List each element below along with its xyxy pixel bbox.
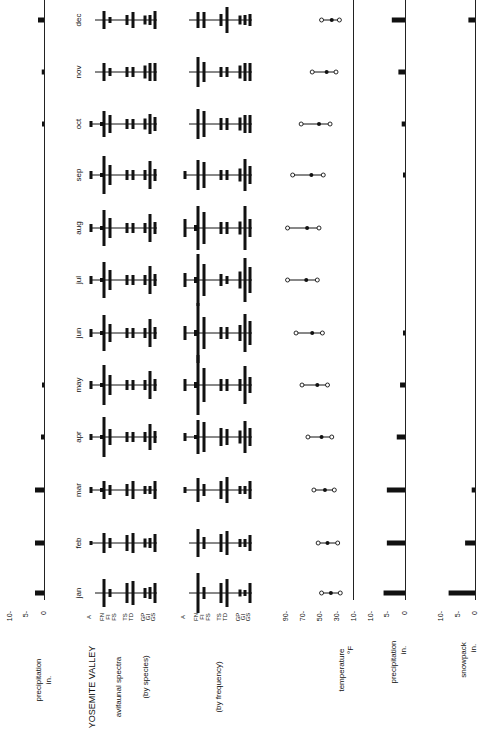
temp-max-feb <box>316 541 320 545</box>
month-label-oct: oct <box>74 118 83 129</box>
by-frequency-label: (by frequency) <box>214 661 223 712</box>
temp-mean-jan <box>329 591 333 595</box>
temp-max-sep <box>291 173 295 177</box>
temp-mean-oct <box>317 122 321 126</box>
species-spectra <box>90 11 158 607</box>
precip-right-label: precipitation <box>389 640 398 683</box>
snowpack-tick-5: 5- <box>454 610 461 617</box>
precip-left-label: precipitation <box>34 658 43 701</box>
temp-max-mar <box>312 488 316 492</box>
temp-max-apr <box>306 435 310 439</box>
temp-tick-70: 70- <box>299 610 306 621</box>
precipitation-left-bar-mar <box>35 488 44 493</box>
temp-max-nov <box>310 70 314 74</box>
month-label-apr: apr <box>74 431 83 443</box>
precip-right-tick-0: 0 <box>401 611 408 615</box>
temperature-unit: °F <box>346 646 355 654</box>
temp-mean-dec <box>330 18 334 22</box>
precip-right-bars <box>384 18 405 596</box>
temp-max-jun <box>294 331 298 335</box>
axis-lines <box>45 0 476 600</box>
temp-min-oct <box>328 122 332 126</box>
month-label-aug: aug <box>74 221 83 234</box>
snowpack-unit: in. <box>469 644 478 652</box>
snowpack-bar-mar <box>472 488 475 493</box>
temp-max-may <box>300 383 304 387</box>
month-label-mar: mar <box>74 483 83 497</box>
temp-max-dec <box>320 18 324 22</box>
month-label-dec: dec <box>74 14 83 27</box>
month-label-may: may <box>74 377 83 392</box>
month-label-jan: jan <box>74 588 83 600</box>
temp-mean-nov <box>325 70 329 74</box>
precipitation-right-bar-feb <box>387 541 405 546</box>
temp-max-jan <box>320 591 324 595</box>
snowpack-bars <box>449 18 475 596</box>
temperature-ranges <box>286 18 343 595</box>
month-label-jul: jul <box>74 276 83 285</box>
precip-right-tick-10: 10- <box>367 610 374 621</box>
freq-cat-FS: FS <box>205 613 211 621</box>
precipitation-left-bar-oct <box>42 122 44 127</box>
temp-min-jan <box>338 591 342 595</box>
precip-right-unit: in. <box>399 646 408 654</box>
precipitation-left-bar-jan <box>35 591 44 596</box>
temp-min-jul <box>315 278 319 282</box>
spectra-label: avifaunal spectra <box>114 656 123 717</box>
freq-cat-TD: TD <box>222 612 228 621</box>
precipitation-left-bar-apr <box>41 435 44 440</box>
temperature-label: temperature <box>337 648 346 692</box>
precipitation-right-bar-dec <box>392 18 405 23</box>
frequency-spectra <box>184 7 253 613</box>
month-label-sep: sep <box>74 168 83 181</box>
yosemite-climate-avifauna-chart: janfebmaraprmayjunjulaugsepoctnovdec 10-… <box>0 0 483 729</box>
precip-left-unit: in. <box>44 676 53 684</box>
temp-max-aug <box>286 226 290 230</box>
precipitation-right-bar-mar <box>387 488 405 493</box>
precipitation-left-bar-may <box>42 383 44 388</box>
snowpack-tick-10: 10- <box>437 610 444 621</box>
temp-min-sep <box>321 173 325 177</box>
freq-cat-GS: GS <box>245 613 251 622</box>
temp-tick-30: 30- <box>333 610 340 621</box>
precipitation-right-bar-may <box>400 383 405 388</box>
temp-min-apr <box>330 435 334 439</box>
temp-mean-jul <box>304 278 308 282</box>
freq-cat-A: A <box>180 615 186 619</box>
temp-max-jul <box>286 278 290 282</box>
temp-min-aug <box>317 226 321 230</box>
by-species-label: (by species) <box>141 655 150 698</box>
temp-min-jun <box>320 331 324 335</box>
precipitation-left-bar-dec <box>38 18 44 23</box>
temp-mean-may <box>315 383 319 387</box>
temp-max-oct <box>299 122 303 126</box>
temp-min-mar <box>332 488 336 492</box>
precipitation-right-bar-nov <box>398 70 405 75</box>
precipitation-right-bar-jun <box>403 331 405 336</box>
temp-mean-sep <box>309 173 313 177</box>
temp-tick-10: 10- <box>350 610 357 621</box>
precipitation-right-bar-sep <box>403 173 405 178</box>
snowpack-bar-jan <box>449 591 475 596</box>
precipitation-right-bar-jan <box>384 591 405 596</box>
temp-mean-apr <box>320 435 324 439</box>
precipitation-right-bar-apr <box>397 435 405 440</box>
snowpack-tick-0: 0 <box>471 611 478 615</box>
month-label-nov: nov <box>74 66 83 79</box>
month-label-feb: feb <box>74 537 83 549</box>
temp-mean-aug <box>305 226 309 230</box>
snowpack-bar-dec <box>468 18 475 23</box>
temp-min-feb <box>336 541 340 545</box>
precipitation-left-bar-nov <box>42 70 44 75</box>
temp-min-dec <box>337 18 341 22</box>
snowpack-bar-feb <box>465 541 475 546</box>
snowpack-label: snowpack <box>459 641 468 678</box>
month-labels: janfebmaraprmayjunjulaugsepoctnovdec <box>74 14 83 600</box>
chart-title: YOSEMITE VALLEY <box>87 646 97 728</box>
temp-tick-50: 50- <box>316 610 323 621</box>
precipitation-right-bar-oct <box>402 122 405 127</box>
species-cat-FS: FS <box>111 613 117 621</box>
temp-mean-feb <box>326 541 330 545</box>
precip-right-tick-5: 5- <box>383 610 390 617</box>
temp-min-may <box>326 383 330 387</box>
